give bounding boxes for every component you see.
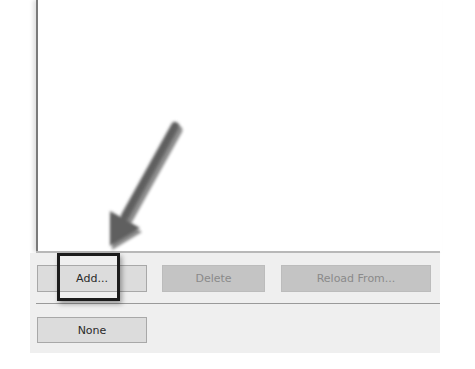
none-button[interactable]: None <box>37 317 147 343</box>
list-bottom-divider <box>36 251 440 253</box>
dialog-fragment: Add... Delete Reload From... None <box>0 0 475 369</box>
item-list[interactable] <box>36 0 442 252</box>
delete-button[interactable]: Delete <box>162 265 265 292</box>
reload-from-button[interactable]: Reload From... <box>281 265 431 292</box>
add-button[interactable]: Add... <box>37 265 147 292</box>
button-row-divider <box>36 303 440 304</box>
